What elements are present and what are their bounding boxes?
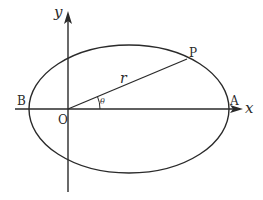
radius-line — [68, 59, 187, 109]
point-p-label: P — [189, 46, 197, 60]
ellipse-diagram: y x O B A P r θ — [0, 0, 263, 200]
point-b-label: B — [17, 94, 26, 108]
x-axis-label: x — [245, 99, 254, 117]
origin-label: O — [58, 113, 68, 127]
point-a-label: A — [229, 94, 239, 108]
y-axis-label: y — [53, 3, 63, 21]
angle-label: θ — [100, 97, 105, 106]
